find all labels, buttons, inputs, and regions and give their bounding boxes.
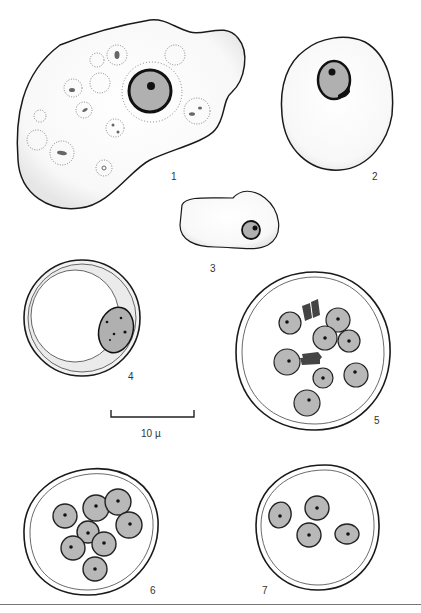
karyosome (147, 82, 155, 90)
cell-outline (17, 20, 245, 209)
figure-label-5: 5 (374, 415, 380, 426)
scale-bar-label: 10 µ (141, 428, 161, 439)
figure-label-3: 3 (210, 263, 216, 274)
figure-7: 7 (256, 465, 379, 596)
figure-1: 1 (17, 20, 245, 209)
figure-3: 3 (180, 191, 279, 274)
figure-label-6: 6 (150, 585, 156, 596)
nucleus (242, 221, 260, 239)
figure-label-2: 2 (372, 171, 378, 182)
figure-4: 4 (24, 260, 140, 382)
karyosome (329, 69, 336, 76)
cell-outline (281, 37, 392, 170)
bottom-divider (0, 604, 421, 605)
figure-6: 6 (24, 469, 158, 596)
karyosome (253, 226, 258, 231)
figure-5: 5 (236, 272, 390, 430)
figure-2: 2 (281, 37, 392, 182)
figure-label-7: 7 (262, 585, 268, 596)
figure-label-4: 4 (128, 371, 134, 382)
illustration-plate: 1 2 3 4 10 µ (0, 0, 421, 613)
scale-bar: 10 µ (111, 410, 194, 439)
cell-outline (180, 191, 279, 249)
nucleus (129, 70, 171, 112)
figure-label-1: 1 (171, 171, 177, 182)
